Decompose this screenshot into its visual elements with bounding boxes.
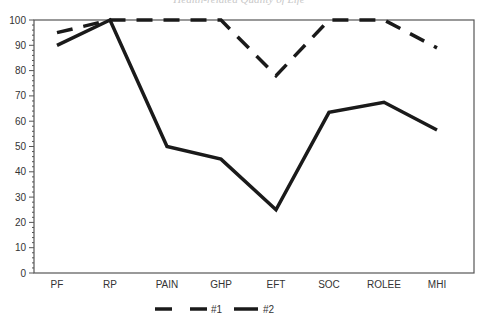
y-tick-label: 90: [15, 40, 27, 51]
y-tick-label: 0: [20, 268, 26, 279]
y-tick-label: 60: [15, 116, 27, 127]
y-tick-label: 30: [15, 192, 27, 203]
x-tick-label: ROLEE: [367, 279, 401, 290]
y-tick-label: 50: [15, 141, 27, 152]
x-tick-label: PAIN: [156, 279, 179, 290]
y-tick-label: 20: [15, 217, 27, 228]
x-tick-label: GHP: [210, 279, 232, 290]
x-tick-label: RP: [103, 279, 117, 290]
y-tick-label: 40: [15, 166, 27, 177]
y-tick-label: 70: [15, 90, 27, 101]
x-tick-label: EFT: [267, 279, 286, 290]
x-tick-label: SOC: [318, 279, 340, 290]
y-tick-label: 10: [15, 242, 27, 253]
y-tick-label: 100: [9, 15, 26, 26]
legend-label-series-2: #2: [263, 304, 275, 315]
x-tick-label: MHI: [428, 279, 446, 290]
legend-label-series-1: #1: [211, 304, 223, 315]
x-tick-label: PF: [51, 279, 64, 290]
line-chart: 0102030405060708090100PFRPPAINGHPEFTSOCR…: [0, 0, 478, 322]
y-tick-label: 80: [15, 65, 27, 76]
plot-frame: [34, 20, 474, 273]
